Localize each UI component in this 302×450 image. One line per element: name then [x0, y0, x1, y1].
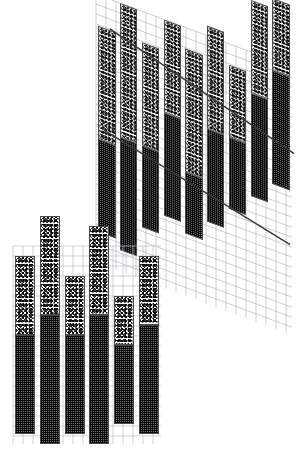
lower-chart-panel [13, 246, 161, 444]
figure-canvas [0, 0, 302, 450]
lower-plot-area [13, 246, 161, 444]
bar-segment-upper-stipple [65, 276, 85, 335]
bar-2 [40, 216, 60, 444]
bar-5 [114, 296, 134, 425]
bar-1 [15, 256, 35, 434]
bar-3 [65, 276, 85, 434]
lower-trendline [104, 130, 290, 244]
bar-segment-upper-stipple [40, 216, 60, 315]
bar-segment-lower-dark [40, 315, 60, 444]
bar-segment-lower-dark [89, 315, 109, 444]
bar-segment-upper-stipple [139, 256, 159, 325]
upper-trendline [110, 29, 294, 154]
bar-segment-upper-stipple [114, 296, 134, 346]
bar-segment-upper-stipple [15, 256, 35, 335]
bar-segment-lower-dark [15, 335, 35, 434]
bar-segment-lower-dark [139, 325, 159, 434]
lower-bar-group [13, 246, 161, 444]
bar-6 [139, 256, 159, 434]
bar-4 [89, 226, 109, 444]
bar-segment-lower-dark [65, 335, 85, 434]
bar-segment-upper-stipple [89, 226, 109, 315]
bar-segment-lower-dark [114, 345, 134, 424]
